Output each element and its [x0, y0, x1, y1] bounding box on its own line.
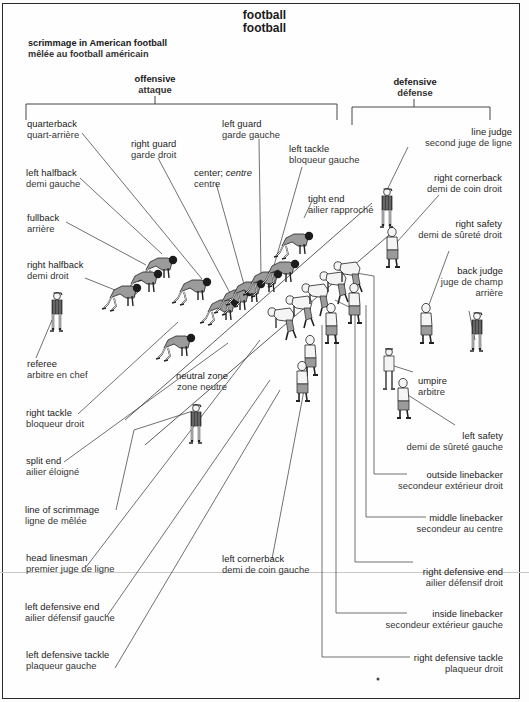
label-umpire: umpirearbitre: [418, 375, 447, 397]
subtitle-fr: mêlée au football américain: [28, 49, 149, 59]
label-left-guard: left guardgarde gauche: [222, 118, 280, 140]
label-right-cornerback: right cornerbackdemi de coin droit: [427, 172, 502, 194]
title-fr: football: [243, 21, 286, 35]
subtitle: scrimmage in American football mêlée au …: [28, 38, 167, 60]
group-defensive: defensive défense: [388, 76, 442, 98]
page-title: football football: [0, 9, 529, 35]
label-left-defensive-tackle: left defensive tackleplaqueur gauche: [26, 649, 109, 671]
subtitle-en: scrimmage in American football: [28, 38, 167, 48]
label-inside-linebacker: inside linebackersecondeur extérieur gau…: [385, 608, 503, 630]
scrimmage-illustration: [0, 0, 529, 702]
label-left-safety: left safetydemi de sûreté gauche: [407, 430, 503, 452]
label-fullback: fullbackarrière: [27, 212, 59, 234]
label-middle-linebacker: middle linebackersecondeur au centre: [417, 512, 503, 534]
title-en: football: [243, 8, 286, 22]
label-right-safety: right safetydemi de sûreté droit: [418, 218, 502, 240]
label-line-judge: line judgesecond juge de ligne: [425, 126, 512, 148]
defensive-players: [268, 227, 434, 418]
label-line-of-scrimmage: line of scrimmageligne de mêlée: [25, 504, 99, 526]
label-quarterback: quarterbackquart-arrière: [27, 118, 79, 140]
label-right-guard: right guardgarde droit: [131, 138, 176, 160]
label-head-linesman: head linesmanpremier juge de ligne: [26, 552, 115, 574]
label-left-defensive-end: left defensive endailier défensif gauche: [25, 601, 115, 623]
label-back-judge: back judgejuge de champarrière: [441, 265, 503, 298]
label-right-defensive-tackle: right defensive tackleplaqueur droit: [414, 652, 503, 674]
label-left-tackle: left tacklebloqueur gauche: [289, 143, 360, 165]
group-offensive: offensive attaque: [128, 73, 182, 95]
label-right-halfback: right halfbackdemi droit: [27, 259, 83, 281]
neutral-zone-lines: [125, 203, 395, 445]
label-left-cornerback: left cornerbackdemi de coin gauche: [222, 553, 309, 575]
label-neutral-zone: neutral zonezone neutre: [160, 370, 244, 392]
label-right-defensive-end: right defensive endailier défensif droit: [423, 566, 503, 588]
label-outside-linebacker: outside linebackersecondeur extérieur dr…: [398, 469, 503, 491]
label-center: center; centre centre: [194, 167, 252, 189]
label-tight-end: tight endailier rapproché: [308, 193, 373, 215]
label-left-halfback: left halfbackdemi gauche: [26, 167, 80, 189]
label-split-end: split endailier éloigné: [26, 455, 79, 477]
scan-speck: [377, 678, 380, 681]
label-right-tackle: right tacklebloqueur droit: [26, 407, 84, 429]
label-referee: refereearbitre en chef: [27, 358, 88, 380]
